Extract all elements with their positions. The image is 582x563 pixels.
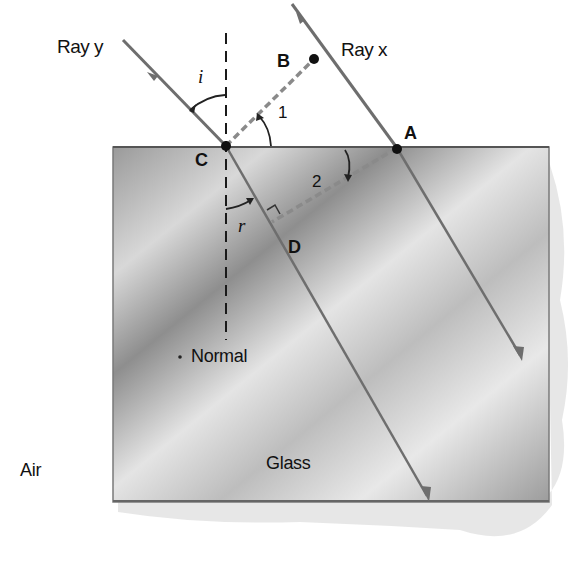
diagram-canvas — [0, 0, 582, 563]
ray-x-label: Ray x — [341, 40, 387, 59]
wavefront-cb — [226, 59, 314, 146]
angle-i-label: i — [198, 67, 203, 86]
normal-bullet — [178, 355, 182, 359]
point-b-label: B — [277, 52, 290, 70]
normal-label: Normal — [191, 347, 247, 365]
point-c-label: C — [195, 151, 208, 169]
point-a-label: A — [404, 124, 417, 142]
angle-r-label: r — [238, 216, 245, 235]
angle-1-label: 1 — [278, 104, 287, 121]
glass-block — [113, 147, 549, 502]
point-c-dot — [221, 141, 231, 151]
refraction-diagram: Ray y Ray x B A C D i r 1 2 Normal Air G… — [0, 0, 582, 563]
ray-y-label: Ray y — [57, 37, 103, 56]
point-d-label: D — [288, 238, 301, 256]
air-label: Air — [20, 461, 41, 479]
angle-2-label: 2 — [312, 173, 321, 190]
point-b-dot — [309, 54, 319, 64]
point-a-dot — [392, 144, 402, 154]
glass-label: Glass — [266, 454, 311, 472]
